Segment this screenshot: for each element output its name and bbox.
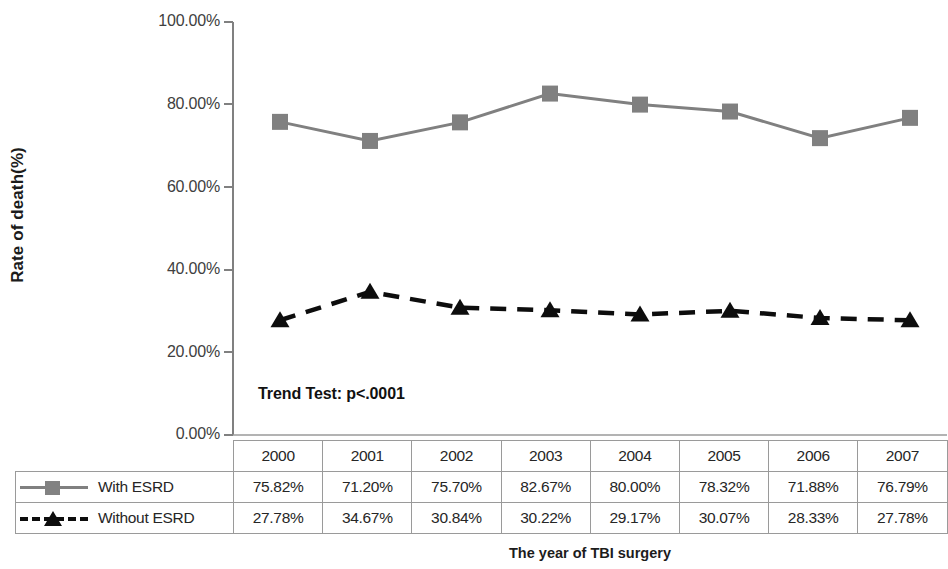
table-header-year-2002: 2002: [412, 441, 501, 472]
data-point-marker: [632, 97, 648, 113]
data-point-marker: [812, 130, 828, 146]
table-header-year-2000: 2000: [234, 441, 323, 472]
data-point-marker: [362, 133, 378, 149]
series-with-esrd: [272, 86, 918, 149]
table-cell-without-esrd-2001: 34.67%: [323, 502, 412, 533]
table-cell-with-esrd-2001: 71.20%: [323, 471, 412, 502]
table-cell-with-esrd-2002: 75.70%: [412, 471, 501, 502]
data-point-marker: [272, 114, 288, 130]
legend-item-without-esrd: Without ESRD: [16, 502, 234, 533]
table-header-year-2003: 2003: [501, 441, 590, 472]
series-without-esrd: [271, 283, 920, 327]
legend-item-with-esrd: With ESRD: [16, 471, 234, 502]
table-row: With ESRD 75.82% 71.20% 75.70% 82.67% 80…: [16, 471, 948, 502]
table-cell-with-esrd-2000: 75.82%: [234, 471, 323, 502]
table-cell-without-esrd-2004: 29.17%: [590, 502, 679, 533]
table-cell-without-esrd-2005: 30.07%: [679, 502, 768, 533]
table-cell-without-esrd-2000: 27.78%: [234, 502, 323, 533]
table-header-row: 2000 2001 2002 2003 2004 2005 2006 2007: [16, 441, 948, 472]
table-header-year-2004: 2004: [590, 441, 679, 472]
table-corner-blank: [16, 441, 234, 472]
legend-key-triangle-icon: [18, 509, 90, 527]
data-point-marker: [722, 104, 738, 120]
table-cell-without-esrd-2006: 28.33%: [769, 502, 858, 533]
data-table: 2000 2001 2002 2003 2004 2005 2006 2007 …: [15, 440, 948, 534]
table-cell-with-esrd-2004: 80.00%: [590, 471, 679, 502]
legend-key-square-icon: [18, 478, 90, 496]
table-cell-without-esrd-2003: 30.22%: [501, 502, 590, 533]
data-point-marker: [361, 283, 380, 299]
data-point-marker: [452, 114, 468, 130]
table-cell-with-esrd-2005: 78.32%: [679, 471, 768, 502]
table-cell-with-esrd-2007: 76.79%: [858, 471, 947, 502]
legend-label-without-esrd: Without ESRD: [98, 509, 194, 527]
data-point-marker: [902, 110, 918, 126]
table-header-year-2007: 2007: [858, 441, 947, 472]
data-point-marker: [542, 86, 558, 102]
x-axis-title: The year of TBI surgery: [233, 545, 947, 561]
legend-label-with-esrd: With ESRD: [98, 478, 174, 496]
table-header-year-2005: 2005: [679, 441, 768, 472]
table-header-year-2001: 2001: [323, 441, 412, 472]
table-cell-with-esrd-2003: 82.67%: [501, 471, 590, 502]
table-cell-without-esrd-2002: 30.84%: [412, 502, 501, 533]
table-header-year-2006: 2006: [769, 441, 858, 472]
table-cell-without-esrd-2007: 27.78%: [858, 502, 947, 533]
table-cell-with-esrd-2006: 71.88%: [769, 471, 858, 502]
table-row: Without ESRD 27.78% 34.67% 30.84% 30.22%…: [16, 502, 948, 533]
trend-test-annotation: Trend Test: p<.0001: [258, 385, 405, 403]
y-axis-ticks: [224, 22, 233, 435]
